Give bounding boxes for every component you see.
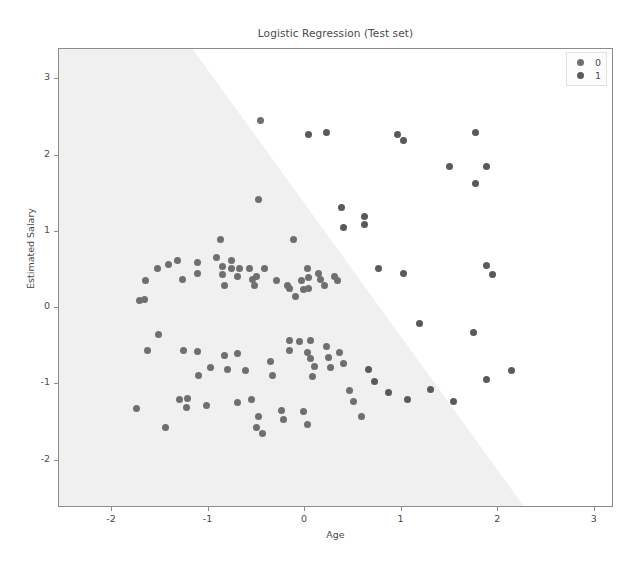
scatter-point-class0 bbox=[174, 257, 181, 264]
scatter-point-class1 bbox=[394, 131, 401, 138]
scatter-point-class1 bbox=[483, 163, 490, 170]
legend-entry-0[interactable]: 0 bbox=[571, 56, 601, 69]
scatter-point-class1 bbox=[472, 129, 479, 136]
scatter-point-class0 bbox=[350, 398, 357, 405]
scatter-point-class0 bbox=[325, 354, 332, 361]
scatter-point-class1 bbox=[427, 386, 434, 393]
y-tick-mark bbox=[54, 78, 58, 79]
scatter-points-layer bbox=[59, 49, 612, 506]
scatter-point-class0 bbox=[286, 337, 293, 344]
scatter-point-class0 bbox=[304, 265, 311, 272]
scatter-point-class0 bbox=[217, 236, 224, 243]
x-tick-mark bbox=[111, 507, 112, 511]
scatter-point-class0 bbox=[286, 347, 293, 354]
y-tick-mark bbox=[54, 155, 58, 156]
scatter-point-class0 bbox=[269, 372, 276, 379]
legend-entry-1[interactable]: 1 bbox=[571, 69, 601, 82]
scatter-point-class0 bbox=[253, 273, 260, 280]
scatter-point-class0 bbox=[144, 347, 151, 354]
scatter-point-class1 bbox=[361, 213, 368, 220]
scatter-point-class0 bbox=[300, 408, 307, 415]
x-tick-mark bbox=[401, 507, 402, 511]
scatter-point-class0 bbox=[248, 396, 255, 403]
chart-title: Logistic Regression (Test set) bbox=[58, 27, 613, 39]
scatter-point-class0 bbox=[155, 331, 162, 338]
scatter-point-class0 bbox=[307, 337, 314, 344]
scatter-point-class1 bbox=[470, 329, 477, 336]
scatter-point-class0 bbox=[253, 424, 260, 431]
scatter-point-class0 bbox=[304, 421, 311, 428]
scatter-point-class0 bbox=[278, 407, 285, 414]
scatter-point-class1 bbox=[385, 389, 392, 396]
scatter-point-class1 bbox=[483, 376, 490, 383]
scatter-point-class0 bbox=[234, 350, 241, 357]
y-tick-mark bbox=[54, 460, 58, 461]
scatter-point-class0 bbox=[176, 396, 183, 403]
scatter-point-class0 bbox=[133, 405, 140, 412]
scatter-point-class0 bbox=[136, 297, 143, 304]
x-axis-label: Age bbox=[58, 529, 613, 540]
scatter-point-class0 bbox=[207, 364, 214, 371]
scatter-point-class1 bbox=[404, 396, 411, 403]
y-tick-mark bbox=[54, 307, 58, 308]
scatter-point-class0 bbox=[180, 347, 187, 354]
scatter-point-class0 bbox=[286, 285, 293, 292]
scatter-point-class1 bbox=[489, 271, 496, 278]
scatter-point-class0 bbox=[290, 236, 297, 243]
scatter-point-class1 bbox=[323, 129, 330, 136]
legend: 01 bbox=[566, 52, 607, 86]
y-tick-label: 2 bbox=[16, 148, 50, 159]
x-tick-mark bbox=[304, 507, 305, 511]
scatter-point-class0 bbox=[336, 349, 343, 356]
legend-marker-icon bbox=[577, 59, 584, 66]
scatter-point-class0 bbox=[340, 360, 347, 367]
scatter-point-class0 bbox=[307, 355, 314, 362]
scatter-point-class1 bbox=[472, 180, 479, 187]
scatter-point-class1 bbox=[365, 366, 372, 373]
legend-marker-icon bbox=[577, 72, 584, 79]
x-tick-label: 1 bbox=[381, 513, 421, 524]
scatter-point-class0 bbox=[221, 352, 228, 359]
scatter-point-class0 bbox=[165, 261, 172, 268]
scatter-point-class1 bbox=[361, 221, 368, 228]
scatter-point-class1 bbox=[375, 265, 382, 272]
scatter-point-class0 bbox=[346, 387, 353, 394]
scatter-point-class0 bbox=[267, 358, 274, 365]
scatter-point-class0 bbox=[219, 263, 226, 270]
scatter-point-class0 bbox=[195, 372, 202, 379]
scatter-point-class0 bbox=[305, 274, 312, 281]
legend-label: 1 bbox=[595, 69, 601, 82]
scatter-point-class0 bbox=[261, 265, 268, 272]
x-tick-mark bbox=[208, 507, 209, 511]
scatter-point-class0 bbox=[321, 282, 328, 289]
scatter-point-class1 bbox=[450, 398, 457, 405]
x-tick-label: -1 bbox=[188, 513, 228, 524]
scatter-point-class0 bbox=[194, 270, 201, 277]
y-tick-label: 0 bbox=[16, 300, 50, 311]
y-tick-mark bbox=[54, 383, 58, 384]
y-tick-label: 3 bbox=[16, 71, 50, 82]
scatter-point-class0 bbox=[255, 413, 262, 420]
scatter-point-class0 bbox=[234, 399, 241, 406]
scatter-point-class0 bbox=[154, 265, 161, 272]
scatter-point-class0 bbox=[228, 257, 235, 264]
y-tick-mark bbox=[54, 231, 58, 232]
scatter-point-class0 bbox=[221, 282, 228, 289]
scatter-point-class1 bbox=[400, 270, 407, 277]
scatter-point-class0 bbox=[219, 271, 226, 278]
scatter-point-class0 bbox=[246, 265, 253, 272]
x-tick-label: 2 bbox=[477, 513, 517, 524]
scatter-point-class0 bbox=[305, 285, 312, 292]
scatter-point-class0 bbox=[358, 413, 365, 420]
scatter-point-class0 bbox=[203, 402, 210, 409]
scatter-point-class0 bbox=[334, 277, 341, 284]
scatter-point-class0 bbox=[309, 373, 316, 380]
x-tick-mark bbox=[594, 507, 595, 511]
scatter-point-class0 bbox=[298, 277, 305, 284]
scatter-point-class1 bbox=[400, 137, 407, 144]
scatter-point-class0 bbox=[273, 277, 280, 284]
scatter-point-class1 bbox=[416, 320, 423, 327]
scatter-point-class0 bbox=[142, 277, 149, 284]
scatter-point-class0 bbox=[292, 293, 299, 300]
plot-area bbox=[58, 48, 613, 507]
